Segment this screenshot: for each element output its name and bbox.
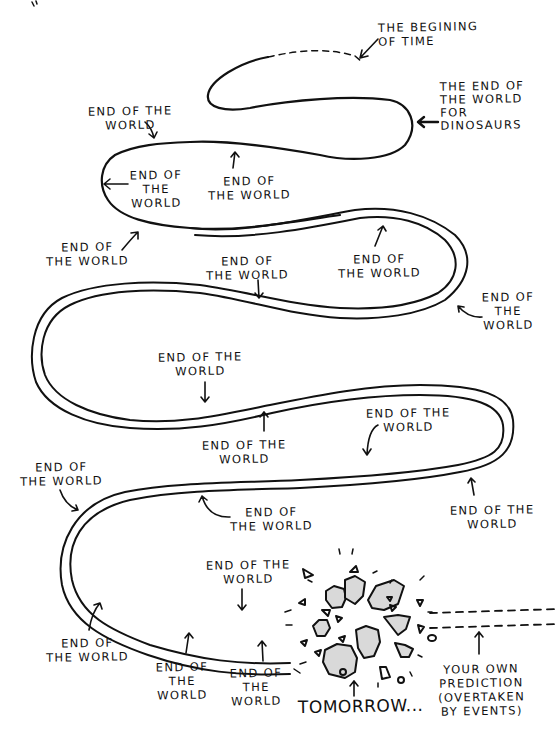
arrow-e12: [199, 496, 230, 517]
label-end-of-world-9: END OF THE WORLD: [202, 437, 287, 466]
rock: [395, 643, 413, 657]
prediction-dashed-upper: [430, 609, 558, 613]
shard: [418, 625, 424, 633]
arrow-e8: [201, 382, 209, 402]
shard: [339, 636, 345, 642]
pebble: [398, 677, 404, 683]
label-end-of-world-7: END OF THE WORLD: [482, 290, 535, 333]
arrow-tomorrow: [350, 681, 358, 696]
shard: [299, 599, 305, 605]
rock: [345, 576, 365, 604]
arrow-e2: [104, 179, 128, 189]
shard: [390, 605, 396, 611]
arrow-e13: [468, 478, 475, 495]
label-end-of-world-8: END OF THE WORLD: [158, 349, 243, 378]
rock: [326, 586, 346, 608]
shard: [322, 610, 330, 616]
shard: [350, 566, 358, 572]
arrow-start: [360, 39, 378, 58]
shard: [303, 569, 313, 578]
label-end-of-world-10: END OF THE WORLD: [366, 405, 451, 434]
label-end-of-world-5: END OF THE WORLD: [206, 253, 289, 282]
label-end-of-world-17: END OF THE WORLD: [230, 666, 283, 709]
start-dotted-line: [268, 51, 362, 62]
arrow-e9: [260, 412, 268, 431]
arrow-dinosaurs: [418, 117, 438, 127]
shard: [315, 650, 321, 656]
arrow-e17: [258, 641, 266, 661]
prediction-dashed-lower: [430, 624, 558, 628]
pebble: [428, 635, 436, 641]
label-end-of-world-12: END OF THE WORLD: [230, 504, 313, 533]
arrow-e11: [60, 490, 78, 511]
arrow-e14: [238, 589, 246, 610]
rock: [384, 615, 410, 635]
explosion: [285, 549, 436, 687]
label-end-of-world-4: END OF THE WORLD: [46, 239, 129, 268]
label-end-for-dinosaurs: THE END OF THE WORLD FOR DINOSAURS: [440, 79, 526, 132]
label-end-of-world-13: END OF THE WORLD: [450, 502, 535, 531]
shard: [301, 640, 307, 646]
label-your-own-prediction: YOUR OWN PREDICTION (OVERTAKEN BY EVENTS…: [438, 661, 526, 719]
arrow-e6: [375, 226, 386, 246]
label-end-of-world-14: END OF THE WORLD: [206, 557, 291, 586]
rock: [368, 580, 404, 610]
label-end-of-world-16: END OF THE WORLD: [156, 660, 209, 703]
arrow-e16: [185, 633, 193, 653]
label-beginning-of-time: THE BEGINING OF TIME: [378, 19, 479, 49]
label-end-of-world-6: END OF THE WORLD: [338, 251, 421, 280]
arrow-e7: [458, 306, 482, 317]
arrow-prediction: [475, 632, 483, 654]
arrow-e5: [255, 280, 263, 298]
shard: [336, 616, 342, 622]
end-of-world-diagram: THE BEGINING OF TIME THE END OF THE WORL…: [0, 0, 558, 744]
arrow-e3: [231, 152, 239, 168]
corner-mark: [32, 1, 37, 6]
label-end-of-world-2: END OF THE WORLD: [130, 168, 183, 211]
shard: [417, 600, 423, 606]
rock: [313, 620, 330, 636]
label-end-of-world-11: END OF THE WORLD: [20, 459, 103, 488]
label-tomorrow: TOMORROW...: [298, 698, 424, 714]
rock: [380, 667, 390, 679]
label-end-of-world-1: END OF THE WORLD: [88, 103, 173, 132]
label-end-of-world-15: END OF THE WORLD: [46, 635, 129, 664]
label-end-of-world-3: END OF THE WORLD: [208, 173, 291, 202]
rock: [356, 626, 380, 658]
arrows: [60, 39, 483, 696]
